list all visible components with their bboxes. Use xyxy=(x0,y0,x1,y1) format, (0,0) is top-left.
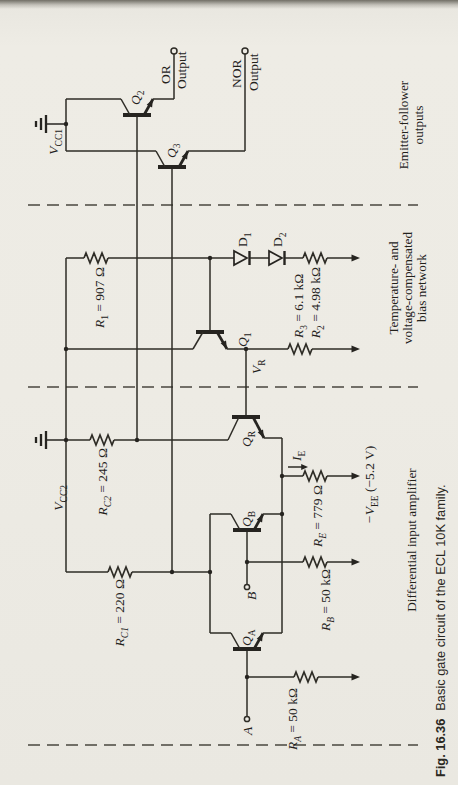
label-vcc1: VCC1 xyxy=(46,129,64,155)
transistor-q3: Q3 xyxy=(66,54,245,167)
svg-text:outputs: outputs xyxy=(411,106,426,145)
label-re: RE = 779 Ω xyxy=(310,485,328,548)
resistor-r1: R1 = 907 Ω xyxy=(66,253,234,329)
label-q2: Q2 xyxy=(128,90,146,105)
section-labels: Emitter-follower outputs Temperature- an… xyxy=(386,80,429,611)
diff-amp-section: RC1 = 220 Ω RC2 = 245 Ω xyxy=(66,349,380,751)
section-label-emitter-follower: Emitter-follower xyxy=(396,80,411,169)
label-qa: QA xyxy=(239,629,257,646)
label-q1: Q1 xyxy=(235,332,253,347)
ground-vcc2-icon xyxy=(36,431,66,449)
label-q3: Q3 xyxy=(164,143,182,158)
input-b: B RB = 50 kΩ xyxy=(244,557,360,632)
label-qb: QB xyxy=(239,511,257,527)
diode-d2: D2 xyxy=(269,232,303,265)
label-rc2: RC2 = 245 Ω xyxy=(95,448,113,516)
label-d2: D2 xyxy=(270,232,288,247)
section-dividers xyxy=(28,205,418,745)
bias-network-section: R1 = 907 Ω Q1 D1 xyxy=(66,232,360,374)
transistor-qb: QB xyxy=(210,511,282,560)
rotated-figure: VCC2 VCC1 RC1 = 220 Ω RC2 = 245 Ω xyxy=(0,0,458,785)
label-input-b: B xyxy=(244,592,259,600)
label-qr: QR xyxy=(239,430,257,447)
terminal-b xyxy=(244,584,249,589)
ie-current: IE xyxy=(288,451,308,470)
label-rc1: RC1 = 220 Ω xyxy=(112,579,130,647)
figure-caption: Fig. 16.36Basic gate circuit of the ECL … xyxy=(433,484,448,777)
transistor-qa: QA xyxy=(210,629,282,675)
input-a: A RA = 50 kΩ xyxy=(240,672,360,751)
ie-arrow-icon xyxy=(301,464,308,470)
label-nor-output: Output xyxy=(246,53,261,91)
resistor-rc2: RC2 = 245 Ω xyxy=(66,435,228,516)
resistor-re: RE = 779 Ω xyxy=(282,471,360,548)
label-vee: −VEE (−5.2 V) xyxy=(362,446,380,525)
scan-edge-shadow xyxy=(0,0,458,9)
svg-text:voltage-compensated: voltage-compensated xyxy=(400,232,415,344)
terminal-a xyxy=(244,716,249,721)
transistor-q2: Q2 xyxy=(66,54,174,115)
diode-d1: D1 xyxy=(234,232,269,265)
label-or-output: Output xyxy=(174,51,189,89)
label-rb: RB = 50 kΩ xyxy=(318,569,336,632)
label-r2: R2 = 4.98 kΩ xyxy=(308,267,326,339)
label-ie: IE xyxy=(289,451,307,463)
label-r3: R3 = 6.1 kΩ xyxy=(291,274,309,339)
section-label-bias-network: Temperature- and xyxy=(386,241,401,335)
label-or: OR xyxy=(158,65,173,84)
label-nor: NOR xyxy=(229,59,244,88)
section-label-diff-amp: Differential input amplifier xyxy=(404,468,419,612)
resistor-rb: RB = 50 kΩ xyxy=(247,557,360,632)
label-vr: VR xyxy=(249,359,267,374)
label-r1: R1 = 907 Ω xyxy=(92,267,110,329)
resistor-ra: RA = 50 kΩ xyxy=(247,672,360,751)
resistor-r3: R3 = 6.1 kΩ xyxy=(246,274,360,354)
circuit-schematic: VCC2 VCC1 RC1 = 220 Ω RC2 = 245 Ω xyxy=(0,0,458,785)
transistor-qr: QR xyxy=(228,349,282,447)
label-input-a: A xyxy=(240,726,255,736)
resistor-r2: R2 = 4.98 kΩ xyxy=(303,253,360,339)
label-vcc2: VCC2 xyxy=(51,485,69,511)
resistor-rc1: RC1 = 220 Ω xyxy=(66,567,210,647)
label-ra: RA = 50 kΩ xyxy=(285,688,303,751)
label-d1: D1 xyxy=(235,232,253,247)
scanned-page: VCC2 VCC1 RC1 = 220 Ω RC2 = 245 Ω xyxy=(0,0,458,785)
power-rails: VCC2 VCC1 xyxy=(36,99,69,572)
svg-text:bias network: bias network xyxy=(414,254,429,322)
